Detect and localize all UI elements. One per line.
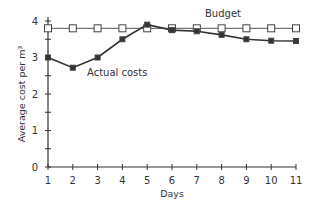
actual-point-marker — [294, 39, 299, 44]
y-tick-label: 3 — [32, 52, 38, 63]
budget-point-marker — [243, 25, 250, 32]
budget-point-marker — [94, 25, 101, 32]
x-tick-label: 6 — [169, 175, 175, 186]
actual-point-marker — [70, 65, 75, 70]
budget-point-marker — [69, 25, 76, 32]
budget-label: Budget — [205, 8, 241, 19]
x-tick-label: 1 — [45, 175, 51, 186]
x-tick-label: 4 — [119, 175, 125, 186]
budget-point-marker — [119, 25, 126, 32]
actual-point-marker — [46, 55, 51, 60]
actual-costs-label: Actual costs — [87, 67, 147, 78]
actual-point-marker — [244, 37, 249, 42]
actual-point-marker — [170, 28, 175, 33]
actual-point-marker — [219, 32, 224, 37]
actual-point-marker — [95, 55, 100, 60]
y-tick-label: 1 — [32, 125, 38, 136]
axes: 012341234567891011 — [32, 16, 303, 187]
line-chart: 012341234567891011 Budget Actual costs D… — [0, 0, 318, 211]
budget-point-marker — [218, 25, 225, 32]
x-tick-label: 5 — [144, 175, 150, 186]
series-group — [45, 22, 300, 70]
x-tick-label: 9 — [243, 175, 249, 186]
x-tick-label: 3 — [94, 175, 100, 186]
actual-point-marker — [145, 22, 150, 27]
y-tick-label: 4 — [32, 16, 38, 27]
x-tick-label: 7 — [194, 175, 200, 186]
x-tick-label: 10 — [265, 175, 278, 186]
budget-point-marker — [268, 25, 275, 32]
y-tick-label: 2 — [32, 89, 38, 100]
actual-point-marker — [269, 38, 274, 43]
x-tick-label: 2 — [70, 175, 76, 186]
actual-point-marker — [194, 29, 199, 34]
x-tick-label: 8 — [218, 175, 224, 186]
x-axis-label: Days — [160, 188, 184, 199]
y-axis-label: Average cost per m³ — [16, 45, 27, 142]
x-tick-label: 11 — [290, 175, 303, 186]
budget-point-marker — [293, 25, 300, 32]
budget-point-marker — [45, 25, 52, 32]
y-tick-label: 0 — [32, 162, 38, 173]
actual-point-marker — [120, 37, 125, 42]
